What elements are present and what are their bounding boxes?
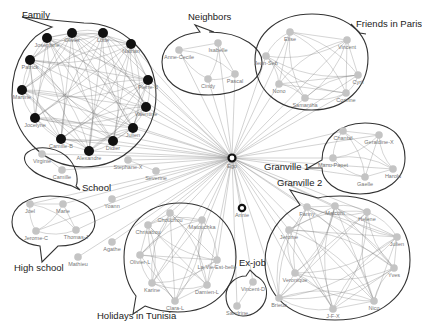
edge: [218, 43, 232, 158]
group-label-granville-2: Granville 2: [277, 177, 322, 188]
node-label: Marie: [56, 208, 70, 214]
node-j-f-x[interactable]: [329, 305, 337, 313]
node-label: Jean-Seb: [254, 60, 278, 66]
node-matouchka[interactable]: [198, 216, 206, 224]
node-label: Cindy: [201, 83, 215, 89]
node-mathieu[interactable]: [74, 253, 82, 261]
node-pascal[interactable]: [231, 70, 239, 78]
edge: [89, 151, 232, 158]
edge: [156, 158, 232, 171]
node-chantal[interactable]: [339, 127, 347, 135]
node-jerome-c[interactable]: [32, 227, 40, 235]
edge: [30, 60, 146, 107]
node-label: Mathieu: [68, 261, 88, 267]
node-fanny[interactable]: [303, 203, 311, 211]
node-julien[interactable]: [393, 233, 401, 241]
edge: [72, 33, 93, 151]
node-yves[interactable]: [390, 264, 398, 272]
ego-node[interactable]: [229, 155, 236, 162]
node-jean-seb[interactable]: [262, 52, 270, 60]
node-label: Olivier: [64, 37, 80, 43]
edge: [290, 32, 347, 40]
node-la-vie-est-belle[interactable]: [213, 256, 221, 264]
node-label: Chrisabou: [135, 229, 160, 235]
node-label: Samantha: [292, 102, 318, 108]
node-jerome[interactable]: [285, 226, 293, 234]
node-label: Patrick: [22, 64, 39, 70]
edge: [61, 128, 133, 141]
ego-network-diagram: JosephineOlivierLotteNathanPierre-BValen…: [0, 0, 422, 334]
node-label: Gaelle: [357, 181, 373, 187]
node-label: Joel: [25, 208, 35, 214]
node-severine[interactable]: [152, 167, 160, 175]
node-yoann[interactable]: [108, 195, 116, 203]
node-nono[interactable]: [275, 80, 283, 88]
node-veronique[interactable]: [291, 269, 299, 277]
node-harold[interactable]: [389, 165, 397, 173]
node-virginie[interactable]: [38, 150, 46, 158]
node-label: Chantal: [334, 135, 353, 141]
node-annie[interactable]: [239, 205, 245, 211]
node-helene[interactable]: [363, 208, 371, 216]
node-nico[interactable]: [370, 297, 378, 305]
node-corinne[interactable]: [342, 89, 350, 97]
node-chrisabou[interactable]: [144, 221, 152, 229]
edge: [266, 56, 358, 77]
node-label: Malcom: [325, 210, 345, 216]
edge: [148, 80, 232, 158]
edge: [179, 50, 232, 158]
node-camille[interactable]: [58, 166, 66, 174]
node-label: Cyril: [353, 79, 364, 85]
node-malcom[interactable]: [331, 202, 339, 210]
node-joel[interactable]: [26, 200, 34, 208]
network-svg: JosephineOlivierLotteNathanPierre-BValen…: [0, 0, 422, 334]
node-vincent[interactable]: [343, 36, 351, 44]
node-label: Thomas-J: [64, 234, 89, 240]
node-cindy[interactable]: [204, 75, 212, 83]
group-label-school: School: [82, 182, 111, 193]
edge: [279, 298, 333, 310]
node-clara-l[interactable]: [171, 297, 179, 305]
node-karine[interactable]: [148, 279, 156, 287]
edge: [146, 107, 232, 158]
node-label: Manu-Papet: [318, 162, 348, 168]
node-label: Harold: [385, 173, 401, 179]
node-damien-l[interactable]: [203, 281, 211, 289]
node-label: Didier: [106, 145, 121, 151]
node-label: Sandrine: [226, 310, 248, 316]
node-label: Jerome: [280, 234, 298, 240]
node-stephane-x[interactable]: [124, 156, 132, 164]
node-label: Fanny: [299, 211, 315, 217]
node-geraldine-x[interactable]: [375, 131, 383, 139]
node-isabelle[interactable]: [214, 39, 222, 47]
group-label-family: Family: [22, 9, 50, 20]
node-cyril[interactable]: [354, 71, 362, 79]
node-chouchou[interactable]: [166, 209, 174, 217]
node-label: Josephine: [34, 42, 59, 48]
node-anne-cecile[interactable]: [175, 46, 183, 54]
ego-label: Ego: [227, 163, 237, 169]
node-brieuc[interactable]: [275, 294, 283, 302]
node-elise[interactable]: [286, 28, 294, 36]
node-manu-papet[interactable]: [329, 154, 337, 162]
node-label: La-Vie-Est-belle: [197, 264, 236, 270]
node-label: J-F-X: [326, 313, 340, 319]
node-label: Olivier-L: [130, 259, 150, 265]
group-label-granville-1: Granville 1: [264, 161, 309, 172]
node-label: Vincent-D: [241, 286, 265, 292]
group-bubbles: [12, 14, 410, 320]
node-gaelle[interactable]: [361, 173, 369, 181]
group-label-ex-job: Ex-job: [239, 257, 266, 268]
node-vincent-d[interactable]: [249, 278, 257, 286]
node-label: Karine: [144, 287, 160, 293]
group-label-holidays-in-tunisia: Holidays in Tunisia: [97, 310, 177, 321]
node-marie[interactable]: [59, 200, 67, 208]
node-samantha[interactable]: [301, 94, 309, 102]
node-thomas-j[interactable]: [72, 226, 80, 234]
node-sandrine[interactable]: [233, 302, 241, 310]
node-label: Helene: [358, 216, 375, 222]
node-label: Stephane-X: [113, 164, 142, 170]
node-olivier-l[interactable]: [136, 251, 144, 259]
node-label: Martine: [13, 94, 31, 100]
node-agathe[interactable]: [108, 238, 116, 246]
